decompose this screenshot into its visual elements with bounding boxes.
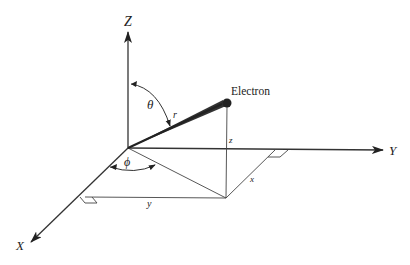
electron-label: Electron [231, 85, 270, 97]
x-component-label: x [249, 174, 254, 184]
axes [31, 32, 383, 242]
z-axis-label: Z [124, 14, 132, 29]
theta-label: θ [147, 97, 154, 112]
r-label: r [173, 109, 177, 120]
electron-point [223, 99, 232, 108]
theta-arrow-start [131, 81, 137, 87]
phi-arc [110, 165, 155, 171]
right-angle-marker-x [80, 197, 97, 203]
projection-ray [128, 148, 226, 198]
phi-label: ϕ [124, 155, 130, 169]
y-axis [128, 148, 383, 150]
y-axis-label: Y [389, 143, 398, 158]
x-axis [31, 148, 128, 242]
z-component-label: z [228, 135, 233, 145]
y-component-label: y [146, 198, 152, 209]
x-axis-label: X [15, 238, 25, 253]
spherical-coordinates-diagram: Z Y X Electron θ ϕ r z x y [0, 0, 410, 265]
radius-vector [128, 99, 232, 149]
y-component-line [85, 197, 226, 198]
z-component-line [226, 105, 227, 198]
projection-lines [80, 105, 288, 203]
